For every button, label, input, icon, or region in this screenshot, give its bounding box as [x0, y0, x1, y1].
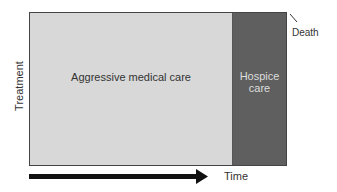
arrows-layer: [0, 0, 337, 192]
death-pointer-icon: [290, 14, 297, 22]
time-arrow-icon: [29, 169, 208, 184]
